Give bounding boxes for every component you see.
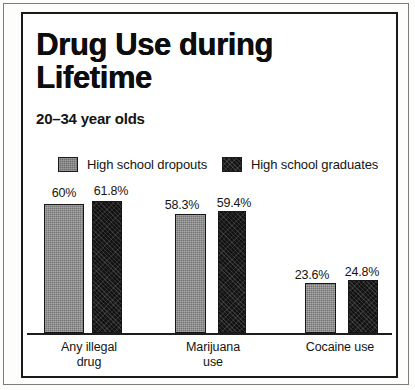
category-label-cocaine-use: Cocaine use (285, 340, 395, 355)
category-label-line-2: use (158, 355, 268, 370)
bar-value-4: 23.6% (290, 268, 334, 282)
plot-area: 60% 61.8% 58.3% 59.4% 23.6% 24.8% (22, 186, 397, 335)
chart-subtitle: 20–34 year olds (36, 110, 145, 127)
bar-value-1: 61.8% (90, 184, 132, 198)
legend-swatch-dropouts (58, 157, 78, 172)
legend-swatch-graduates (222, 157, 242, 172)
legend-label-dropouts: High school dropouts (87, 157, 207, 172)
bar-dropouts-any-illegal-drug (44, 204, 84, 333)
legend-label-graduates: High school graduates (251, 157, 378, 172)
bar-graduates-any-illegal-drug (92, 201, 122, 333)
legend-item-dropouts: High school dropouts (58, 157, 207, 172)
chart-legend: High school dropouts High school graduat… (58, 157, 378, 177)
bar-value-5: 24.8% (340, 265, 384, 279)
category-label-marijuana-use: Marijuana use (158, 340, 268, 370)
bar-dropouts-marijuana-use (175, 214, 206, 333)
x-axis-line (27, 333, 392, 335)
category-label-any-illegal-drug: Any illegal drug (34, 340, 144, 370)
category-label-line-1: Any illegal (34, 340, 144, 355)
bar-value-3: 59.4% (212, 196, 256, 210)
category-axis-labels: Any illegal drug Marijuana use Cocaine u… (22, 340, 397, 380)
bar-dropouts-cocaine-use (305, 283, 336, 333)
bar-graduates-cocaine-use (348, 280, 378, 333)
bar-graduates-marijuana-use (218, 211, 246, 333)
category-label-line-2: drug (34, 355, 144, 370)
category-label-line-1: Cocaine use (285, 340, 395, 355)
legend-item-graduates: High school graduates (222, 157, 378, 172)
chart-figure: Drug Use during Lifetime 20–34 year olds… (0, 0, 415, 390)
bar-value-0: 60% (44, 186, 84, 200)
category-label-line-1: Marijuana (158, 340, 268, 355)
bar-value-2: 58.3% (160, 198, 204, 212)
chart-title: Drug Use during Lifetime (36, 28, 366, 94)
